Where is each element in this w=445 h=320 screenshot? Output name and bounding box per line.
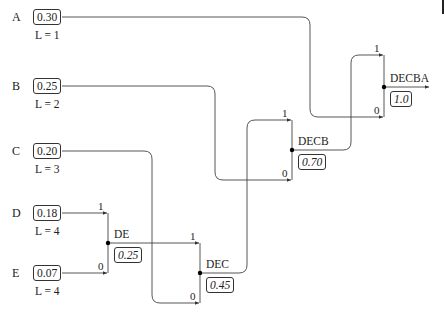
huffman-diagram: A B C D E 0.30 0.25 0.20 0.18 0.07 L = 1… <box>0 0 445 320</box>
node-prob-dec: 0.45 <box>206 277 234 293</box>
node-decba <box>382 85 386 89</box>
bit-label-dec-0: 0 <box>190 290 196 302</box>
edge-b-to-decb <box>62 86 291 180</box>
length-c: L = 3 <box>35 163 60 175</box>
symbol-a-label: A <box>12 11 21 23</box>
node-prob-de: 0.25 <box>114 247 142 263</box>
prob-box-a: 0.30 <box>33 9 61 25</box>
node-prob-decba: 1.0 <box>390 91 412 107</box>
length-e: L = 4 <box>35 285 60 297</box>
node-name-de: DE <box>114 228 129 240</box>
length-d: L = 4 <box>35 225 60 237</box>
edge-dec-to-decb <box>200 120 291 273</box>
prob-box-e: 0.07 <box>33 265 61 281</box>
edge-c-to-dec <box>62 151 199 303</box>
symbol-c-label: C <box>12 145 20 157</box>
node-prob-decb: 0.70 <box>298 154 326 170</box>
node-name-decb: DECB <box>298 135 329 147</box>
symbol-d-label: D <box>12 207 21 219</box>
length-a: L = 1 <box>35 29 60 41</box>
symbol-e-label: E <box>12 267 19 279</box>
edge-a-to-decba <box>62 17 383 117</box>
bit-label-de-0: 0 <box>98 260 104 272</box>
node-name-decba: DECBA <box>390 72 429 84</box>
page-edge-mark <box>442 0 444 14</box>
node-dec <box>198 271 202 275</box>
symbol-b-label: B <box>12 80 20 92</box>
bit-label-de-1: 1 <box>98 200 104 212</box>
bit-label-decba-1: 1 <box>374 42 380 54</box>
prob-box-d: 0.18 <box>33 205 61 221</box>
prob-box-c: 0.20 <box>33 143 61 159</box>
bit-label-decb-1: 1 <box>282 107 288 119</box>
length-b: L = 2 <box>35 98 60 110</box>
node-de <box>106 241 110 245</box>
node-decb <box>290 148 294 152</box>
node-name-dec: DEC <box>206 258 229 270</box>
bit-label-decba-0: 0 <box>374 104 380 116</box>
prob-box-b: 0.25 <box>33 78 61 94</box>
bit-label-dec-1: 1 <box>190 230 196 242</box>
bit-label-decb-0: 0 <box>282 167 288 179</box>
